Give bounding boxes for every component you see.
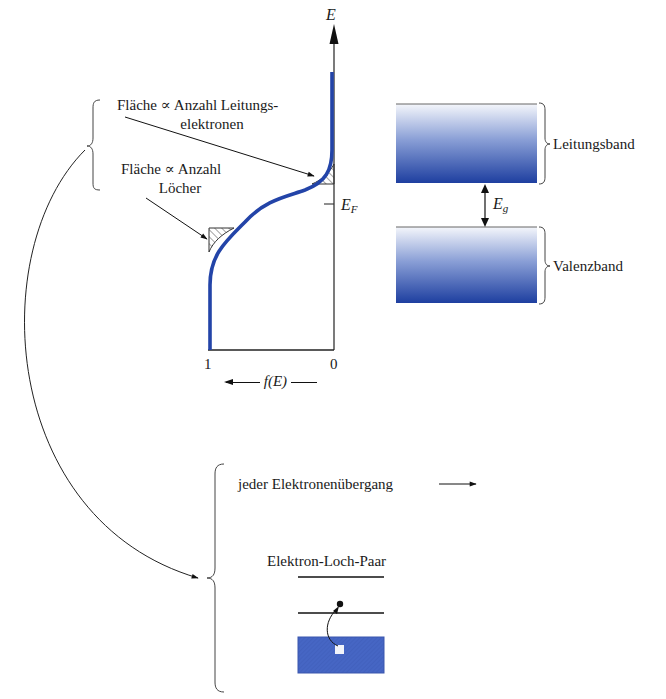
fermi-label-main: E xyxy=(341,196,351,213)
electron-icon xyxy=(337,601,343,607)
diagram-graphics xyxy=(0,0,666,699)
conduction-band xyxy=(396,104,537,183)
conduction-band-label: Leitungsband xyxy=(553,135,635,153)
semiconductor-band-diagram: E EF 1 0 f(E) Fläche ∝ Anzahl Leitungs- … xyxy=(0,0,666,699)
gap-label-sub: g xyxy=(503,202,509,214)
transition-caption: jeder Elektronenübergang xyxy=(238,475,393,493)
lower-brace xyxy=(207,464,224,692)
holes-area-arrow xyxy=(146,198,207,239)
f-axis-tick-0: 0 xyxy=(330,355,338,373)
fermi-level-label: EF xyxy=(341,196,358,218)
connecting-arc xyxy=(25,150,198,578)
conduction-brace xyxy=(539,103,550,184)
holes-area-label-line1: Fläche ∝ Anzahl xyxy=(121,160,221,178)
f-axis-label: f(E) xyxy=(226,372,317,390)
occupancy-frame xyxy=(208,204,334,350)
conduction-area-label-line1: Fläche ∝ Anzahl Leitungs- xyxy=(117,96,278,114)
electron-hole-pair-diagram xyxy=(298,577,384,673)
energy-axis-label: E xyxy=(326,6,336,24)
axis-arrow-icon xyxy=(330,24,339,44)
band-gap-arrow xyxy=(481,184,489,227)
gap-label-main: E xyxy=(493,195,503,212)
f-axis-text: f(E) xyxy=(264,373,287,389)
f-axis-tick-1: 1 xyxy=(204,355,212,373)
valence-box xyxy=(298,637,384,673)
conduction-area-label-line2: elektronen xyxy=(162,115,262,133)
holes-area-label-line2: Löcher xyxy=(140,179,220,197)
upper-brace xyxy=(87,100,100,190)
f-axis-left-arrow xyxy=(226,382,260,383)
hole-icon xyxy=(335,645,344,654)
valence-band-label: Valenzband xyxy=(553,257,623,275)
fermi-label-sub: F xyxy=(351,203,358,215)
electron-hole-pair-label: Elektron-Loch-Paar xyxy=(267,552,386,570)
f-axis-right-line xyxy=(291,382,317,383)
band-gap-label: Eg xyxy=(493,195,508,217)
valence-band xyxy=(396,227,537,303)
valence-brace xyxy=(539,227,550,304)
